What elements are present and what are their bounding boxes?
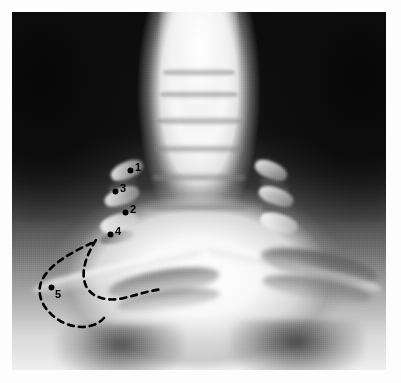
marker-label-3: 3	[120, 183, 126, 194]
marker-label-1: 1	[135, 162, 141, 173]
marker-dot-2	[123, 210, 128, 215]
film-grain	[12, 12, 386, 370]
marker-label-5: 5	[55, 289, 61, 300]
marker-dot-4	[108, 232, 113, 237]
marker-dot-1	[128, 168, 133, 173]
marker-dot-5	[49, 285, 54, 290]
radiograph-figure: 13245	[0, 0, 401, 383]
marker-label-4: 4	[115, 226, 121, 237]
radiograph-image	[12, 12, 386, 370]
marker-label-2: 2	[130, 204, 136, 215]
marker-dot-3	[113, 189, 118, 194]
